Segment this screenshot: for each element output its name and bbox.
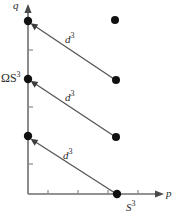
y-axis-tick-label: ΩS3 [1, 71, 21, 84]
point-y-axis-middle [24, 75, 32, 83]
x-axis-tick-label: S3 [126, 200, 136, 213]
arrow-label-d3-top-exponent: 3 [71, 31, 75, 40]
arrow-label-d3-bottom-exponent: 3 [69, 147, 73, 156]
point-isolated-top-right [111, 16, 119, 24]
y-axis-arrowhead [24, 4, 31, 13]
x-axis-label: p [166, 188, 172, 199]
point-y-axis-bottom [24, 132, 32, 140]
y-axis-tick-label-base: ΩS [1, 71, 17, 85]
arrow-label-d3-bottom: d3 [63, 148, 73, 161]
diagram-vector-layer [0, 0, 180, 220]
arrow-label-d3-middle-exponent: 3 [71, 89, 75, 98]
x-axis-arrowhead [155, 190, 164, 197]
arrow-label-d3-top: d3 [65, 32, 75, 45]
point-arrow-start-bottom [113, 190, 121, 198]
arrow-label-d3-middle: d3 [65, 90, 75, 103]
y-axis-label: q [13, 0, 19, 11]
arrow-d3-bottom [31, 139, 115, 193]
point-y-axis-top [24, 17, 32, 25]
point-arrow-start-middle [112, 133, 120, 141]
point-arrow-start-top [112, 76, 120, 84]
x-axis-tick-label-exponent: 3 [132, 199, 136, 208]
diagram-canvas: q p ΩS3 S3 d3 d3 d3 [0, 0, 180, 220]
y-axis-tick-label-exponent: 3 [17, 70, 21, 79]
